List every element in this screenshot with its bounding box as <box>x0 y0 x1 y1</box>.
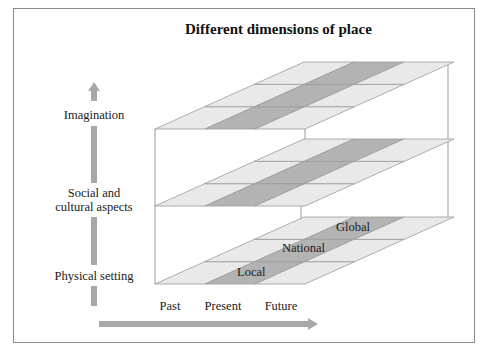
time-label-future: Future <box>265 299 298 313</box>
arrow-right-head-icon <box>308 318 318 330</box>
plane-imagination <box>155 62 454 129</box>
level-label-imagination: Imagination <box>64 108 125 122</box>
time-label-past: Past <box>160 299 181 313</box>
diagram-title: Different dimensions of place <box>185 21 372 37</box>
arrow-up-head-icon <box>88 82 100 101</box>
place-dimensions-diagram: Different dimensions of place Local Nati… <box>0 0 485 354</box>
depth-label-global: Global <box>336 220 371 234</box>
time-label-present: Present <box>205 299 242 313</box>
level-label-social-1: Social and <box>68 186 121 200</box>
plane-social <box>155 139 454 206</box>
depth-label-local: Local <box>237 265 266 279</box>
horizontal-arrow <box>99 318 318 330</box>
depth-label-national: National <box>282 241 326 255</box>
level-label-physical: Physical setting <box>55 269 135 283</box>
level-label-social-2: cultural aspects <box>55 200 133 214</box>
